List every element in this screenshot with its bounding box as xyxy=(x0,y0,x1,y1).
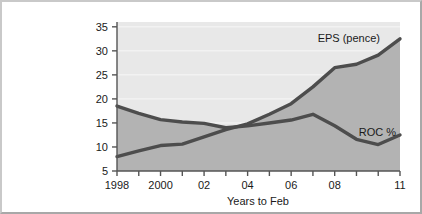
y-axis-tick-label: 35 xyxy=(96,21,108,33)
y-axis-tick-label: 25 xyxy=(96,69,108,81)
x-axis-tick-label: 11 xyxy=(394,179,405,191)
eps-series-label: EPS (pence) xyxy=(318,32,380,44)
x-axis-tick-label: 02 xyxy=(198,179,210,191)
roc-series-label: ROC % xyxy=(359,126,397,138)
x-axis-tick-label: 08 xyxy=(329,179,341,191)
y-axis-tick-label: 15 xyxy=(96,117,108,129)
y-axis-ticks xyxy=(112,27,117,171)
y-axis-tick-label: 20 xyxy=(96,93,108,105)
x-axis-title: Years to Feb xyxy=(227,195,289,207)
x-axis-tick-label: 04 xyxy=(241,179,253,191)
x-axis-tick-labels: 199820000204060811 xyxy=(105,179,406,191)
line-area-chart: 5101520253035 199820000204060811 Years t… xyxy=(0,0,422,214)
x-axis-tick-label: 06 xyxy=(285,179,297,191)
x-axis-tick-label: 2000 xyxy=(148,179,172,191)
y-axis-tick-label: 5 xyxy=(102,165,108,177)
y-axis-tick-label: 30 xyxy=(96,45,108,57)
y-axis-tick-label: 10 xyxy=(96,141,108,153)
x-axis-ticks xyxy=(117,171,400,176)
chart-svg: 5101520253035 199820000204060811 Years t… xyxy=(0,0,422,214)
y-axis-tick-labels: 5101520253035 xyxy=(96,21,108,177)
x-axis-tick-label: 1998 xyxy=(105,179,129,191)
chart-screenshot: 5101520253035 199820000204060811 Years t… xyxy=(0,0,422,214)
